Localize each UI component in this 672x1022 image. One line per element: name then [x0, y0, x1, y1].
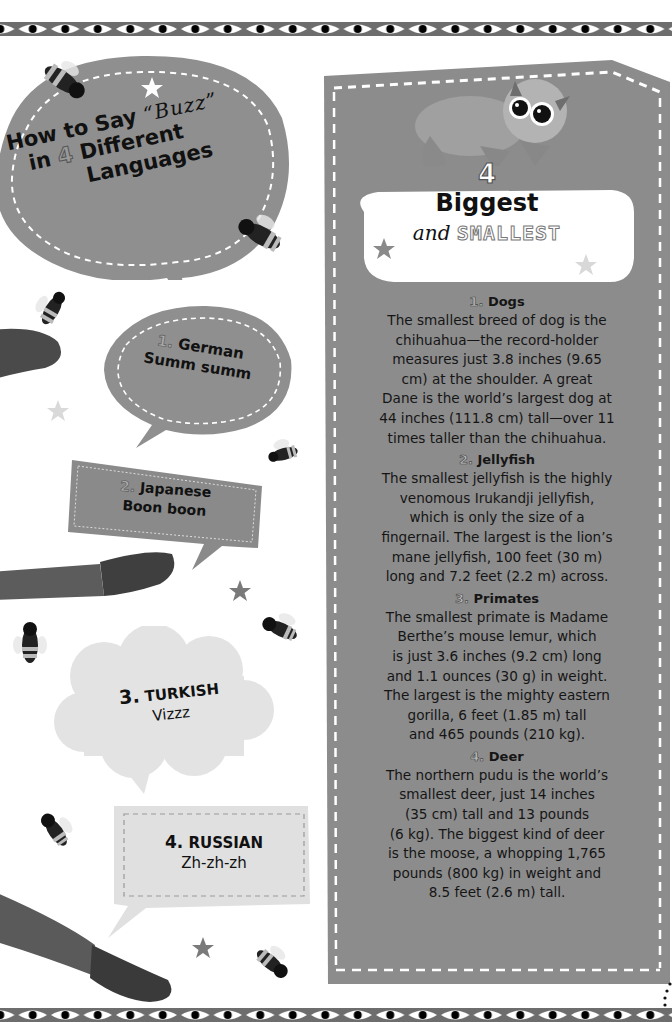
- star-icon: [229, 580, 251, 601]
- section-body: The smallest breed of dog is the chihuah…: [338, 311, 656, 448]
- body-line: and 465 pounds (210 kg).: [338, 725, 656, 745]
- section-body: The smallest primate is Madame Berthe’s …: [338, 608, 656, 745]
- body-line: 8.5 feet (2.6 m) tall.: [338, 883, 656, 903]
- star-icon: [192, 937, 214, 958]
- section-number: 4.: [470, 749, 484, 764]
- bee-icon: [253, 939, 297, 981]
- bee-icon: [29, 284, 68, 327]
- facts-header: 4 Biggest and SMALLEST: [362, 160, 612, 248]
- body-line: The smallest primate is Madame: [338, 608, 656, 628]
- language-number: 4.: [165, 832, 183, 852]
- language-number: 3.: [118, 684, 141, 708]
- header-subtitle-prefix: and: [413, 221, 451, 245]
- section-title: Jellyfish: [477, 452, 535, 467]
- body-line: The smallest breed of dog is the: [338, 311, 656, 331]
- body-line: The smallest jellyfish is the highly: [338, 469, 656, 489]
- body-line: mane jellyfish, 100 feet (30 m): [338, 548, 656, 568]
- section-body: The smallest jellyfish is the highly ven…: [338, 469, 656, 587]
- fact-section-deer: 4. Deer The northern pudu is the world’s…: [338, 747, 656, 903]
- body-line: long and 7.2 feet (2.2 m) across.: [338, 567, 656, 587]
- body-line: (6 kg). The biggest kind of deer: [338, 825, 656, 845]
- bee-icon: [40, 52, 94, 102]
- section-title: Deer: [489, 749, 524, 764]
- star-icon: [47, 400, 69, 421]
- fact-section-dogs: 1. Dogs The smallest breed of dog is the…: [338, 292, 656, 448]
- header-number: 4: [362, 160, 612, 188]
- eye-pattern-icon: [0, 1008, 672, 1022]
- body-line: which is only the size of a: [338, 508, 656, 528]
- body-line: (35 cm) tall and 13 pounds: [338, 805, 656, 825]
- facts-list: 1. Dogs The smallest breed of dog is the…: [338, 292, 656, 905]
- body-line: The northern pudu is the world’s: [338, 766, 656, 786]
- body-line: smallest deer, just 14 inches: [338, 785, 656, 805]
- section-number: 3.: [455, 591, 469, 606]
- body-line: and 1.1 ounces (30 g) in weight.: [338, 667, 656, 687]
- body-line: chihuahua—the record-holder: [338, 331, 656, 351]
- header-subtitle-emphasis: SMALLEST: [457, 221, 561, 245]
- lemur-illustration: [410, 66, 590, 166]
- body-line: is just 3.6 inches (9.2 cm) long: [338, 647, 656, 667]
- body-line: times taller than the chihuahua.: [338, 429, 656, 449]
- body-line: is the moose, a whopping 1,765: [338, 844, 656, 864]
- body-line: pounds (800 kg) in weight and: [338, 864, 656, 884]
- body-line: 44 inches (111.8 cm) tall—over 11: [338, 409, 656, 429]
- section-number: 1.: [469, 294, 483, 309]
- bottom-eye-border: [0, 1008, 672, 1022]
- section-title: Dogs: [488, 294, 525, 309]
- fact-section-primates: 3. Primates The smallest primate is Mada…: [338, 589, 656, 745]
- section-title: Primates: [474, 591, 539, 606]
- body-line: cm) at the shoulder. A great: [338, 370, 656, 390]
- header-title: Biggest: [362, 188, 612, 218]
- fact-section-jellyfish: 2. Jellyfish The smallest jellyfish is t…: [338, 450, 656, 587]
- language-number: 1.: [156, 331, 175, 351]
- body-line: Dane is the world’s largest dog at: [338, 389, 656, 409]
- language-name: RUSSIAN: [189, 834, 263, 852]
- body-line: venomous Irukandji jellyfish,: [338, 489, 656, 509]
- language-sound: Zh-zh-zh: [134, 853, 294, 873]
- language-number: 2.: [120, 478, 136, 495]
- bee-icon: [13, 622, 47, 663]
- body-line: Berthe’s mouse lemur, which: [338, 627, 656, 647]
- section-body: The northern pudu is the world’s smalles…: [338, 766, 656, 903]
- language-item-russian: 4. RUSSIAN Zh-zh-zh: [134, 832, 294, 873]
- body-line: gorilla, 6 feet (1.85 m) tall: [338, 706, 656, 726]
- body-line: fingernail. The largest is the lion’s: [338, 528, 656, 548]
- body-line: measures just 3.8 inches (9.65: [338, 350, 656, 370]
- bee-icon: [38, 805, 79, 849]
- body-line: The largest is the mighty eastern: [338, 686, 656, 706]
- bee-icon: [235, 206, 289, 254]
- section-number: 2.: [459, 452, 473, 467]
